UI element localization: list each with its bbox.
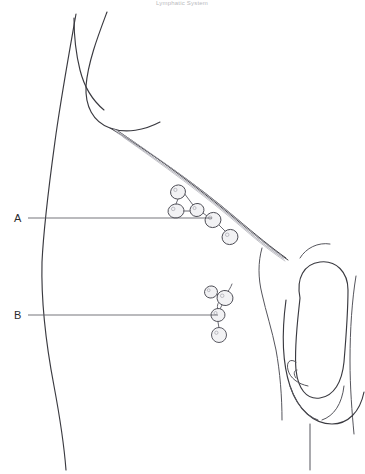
label-a-text: A: [14, 212, 22, 224]
inguinal-ligament-group: [110, 128, 288, 261]
torso-left-contour: [42, 14, 76, 470]
lymph-node-b-4: [212, 328, 227, 343]
label-leader-lines: [28, 218, 218, 315]
body-outline-group: [42, 12, 356, 470]
lymph-node-a-4: [203, 210, 223, 230]
ligament-fiber-lines: [114, 129, 285, 261]
lymph-connector-a-5: [219, 225, 225, 231]
lymph-connector-a-2: [184, 193, 193, 205]
genitalia-group: [283, 262, 364, 470]
figure-title: Lymphatic System: [156, 0, 208, 6]
lymph-node-a-1: [169, 183, 188, 201]
lymph-connector-a-1: [176, 199, 178, 204]
label-b-text: B: [14, 309, 21, 321]
ligament-fiber-2: [116, 132, 283, 258]
thigh-crease-contour: [259, 248, 282, 420]
ligament-fiber-4: [123, 137, 285, 261]
penis-outline: [295, 262, 348, 398]
lymph-node-a-5: [220, 227, 240, 247]
outer-thigh-contour: [350, 276, 356, 434]
scrotum-left-lobe: [290, 386, 318, 420]
lymph-node-b-1: [203, 285, 219, 300]
lymph-node-a-3: [189, 202, 206, 218]
iliac-crest-contour: [86, 12, 160, 131]
lymphatic-system-figure: Lymphatic System: [0, 0, 365, 474]
lymph-node-cluster-b: [203, 284, 234, 343]
lymph-node-a-2: [167, 203, 185, 220]
right-thigh-edge: [300, 244, 330, 258]
anatomy-illustration-canvas: Lymphatic System: [0, 0, 365, 474]
glans-outline: [287, 360, 308, 386]
